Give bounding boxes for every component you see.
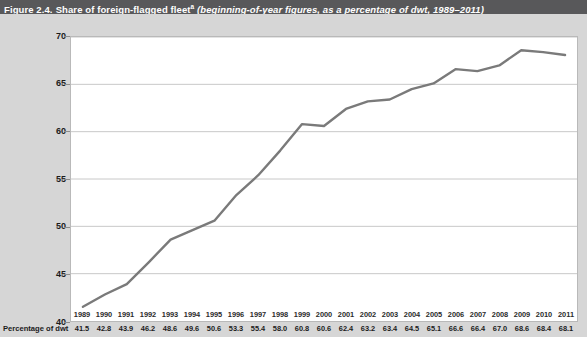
gridlines: [71, 37, 577, 274]
y-axis-label: 55: [40, 175, 66, 184]
figure-subtitle: (beginning-of-year figures, as a percent…: [197, 4, 484, 14]
table-row-values: 41.542.843.946.248.649.650.653.355.458.0…: [0, 322, 587, 336]
y-axis-label: 65: [40, 79, 66, 88]
table-row-label: Percentage of dwt: [3, 322, 71, 335]
figure-title-bar: Figure 2.4.Share of foreign-flagged flee…: [0, 0, 587, 14]
y-axis-labels: 40455055606570: [36, 36, 66, 322]
y-axis-label: 60: [40, 127, 66, 136]
figure-title-text: Share of foreign-flagged fleet: [56, 4, 191, 14]
line-chart-svg: [71, 37, 577, 321]
y-axis-label: 45: [40, 270, 66, 279]
figure-footnote-marker: a: [191, 3, 195, 10]
figure-number: Figure 2.4.: [4, 4, 53, 14]
y-axis-label: 50: [40, 222, 66, 231]
plot-panel: [70, 36, 578, 322]
y-axis-label: 70: [40, 32, 66, 41]
table-cell-year: 2011: [551, 308, 581, 321]
chart-container: 40455055606570: [0, 14, 587, 337]
data-table: 1989199019911992199319941995199619971998…: [0, 308, 587, 337]
table-cell-value: 68.1: [551, 322, 581, 335]
table-row-years: 1989199019911992199319941995199619971998…: [0, 308, 587, 322]
